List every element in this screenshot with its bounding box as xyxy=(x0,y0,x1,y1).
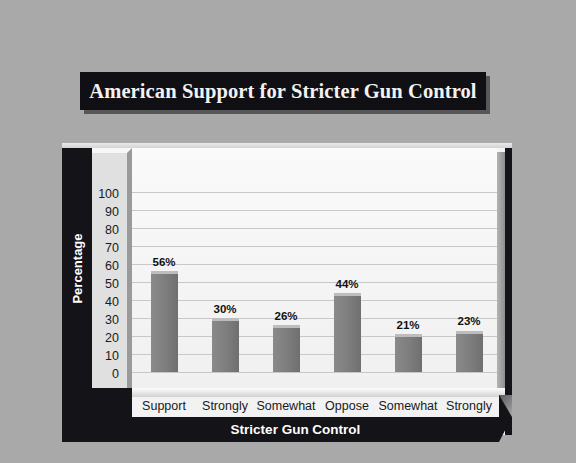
bar-value-label: 30% xyxy=(205,303,245,315)
plot-area: 56% 30% 26% 44% 21% 23% xyxy=(132,148,497,388)
gridline xyxy=(132,282,497,283)
bar-value-label: 21% xyxy=(388,319,428,331)
bar-somewhat-oppose[interactable] xyxy=(395,334,422,372)
x-category-line-1: Somewhat xyxy=(375,399,441,415)
gridline xyxy=(132,210,497,211)
gridline xyxy=(132,300,497,301)
y-tick-label: 60 xyxy=(105,260,119,273)
bar-somewhat-support[interactable] xyxy=(273,325,300,372)
y-tick-label: 10 xyxy=(105,350,119,363)
gridline xyxy=(132,336,497,337)
y-axis-title-band: Percentage xyxy=(62,148,92,388)
y-tick-label: 70 xyxy=(105,242,119,255)
gridline xyxy=(132,246,497,247)
y-tick-label: 30 xyxy=(105,314,119,327)
y-tick-label: 80 xyxy=(105,224,119,237)
chart-title-banner: American Support for Stricter Gun Contro… xyxy=(80,72,486,110)
bar-value-label: 44% xyxy=(327,278,367,290)
gridline xyxy=(132,354,497,355)
x-category-line-1: Oppose xyxy=(314,399,380,415)
bar-value-label: 26% xyxy=(266,310,306,322)
bar-strongly-oppose[interactable] xyxy=(456,331,483,372)
bar-support-net[interactable] xyxy=(151,271,178,372)
x-axis-band-bevel xyxy=(499,395,512,442)
y-tick-label: 20 xyxy=(105,332,119,345)
x-category-line-1: Support xyxy=(131,399,197,415)
plot-right-wall xyxy=(497,148,505,395)
bar-oppose-net[interactable] xyxy=(334,293,361,372)
y-tick-label: 40 xyxy=(105,296,119,309)
chart-title: American Support for Stricter Gun Contro… xyxy=(89,80,476,103)
bar-strongly-support[interactable] xyxy=(212,318,239,372)
x-category-line-1: Strongly xyxy=(192,399,258,415)
x-axis-title: Stricter Gun Control xyxy=(201,422,361,437)
y-axis-tick-column: 100 90 80 70 60 50 40 30 20 10 0 xyxy=(92,148,132,388)
gridline xyxy=(132,372,497,373)
x-axis-title-band: Stricter Gun Control xyxy=(62,417,499,442)
y-tick-label: 0 xyxy=(112,368,119,381)
y-axis-title: Percentage xyxy=(70,233,85,303)
chart-frame: Percentage 100 90 80 70 60 50 40 30 20 1… xyxy=(62,148,512,435)
gridline xyxy=(132,264,497,265)
bar-value-label: 23% xyxy=(449,315,489,327)
y-tick-label: 50 xyxy=(105,278,119,291)
y-tick-label: 90 xyxy=(105,206,119,219)
gridline xyxy=(132,192,497,193)
gridline xyxy=(132,318,497,319)
bar-value-label: 56% xyxy=(144,256,184,268)
plot-floor xyxy=(132,388,505,397)
y-tick-label: 100 xyxy=(98,188,119,201)
x-category-line-1: Strongly xyxy=(436,399,502,415)
x-category-line-1: Somewhat xyxy=(253,399,319,415)
gridline xyxy=(132,228,497,229)
